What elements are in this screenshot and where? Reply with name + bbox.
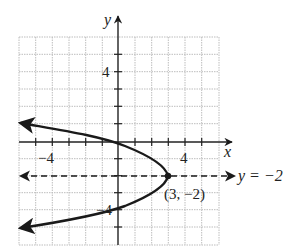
vertex-point xyxy=(165,173,171,179)
y-tick-label-neg: −4 xyxy=(96,202,112,218)
vertex-label: (3, −2) xyxy=(164,186,205,203)
symmetry-label: y = −2 xyxy=(236,167,283,185)
y-axis-label: y xyxy=(102,11,112,29)
y-tick-label-pos: 4 xyxy=(102,64,110,80)
x-axis-label: x xyxy=(223,143,231,160)
graph: y x 4 −4 −4 4 (3, −2) y = −2 xyxy=(0,0,286,251)
grid xyxy=(19,37,219,245)
x-tick-label-pos: 4 xyxy=(180,150,188,166)
x-tick-label-neg: −4 xyxy=(38,150,54,166)
